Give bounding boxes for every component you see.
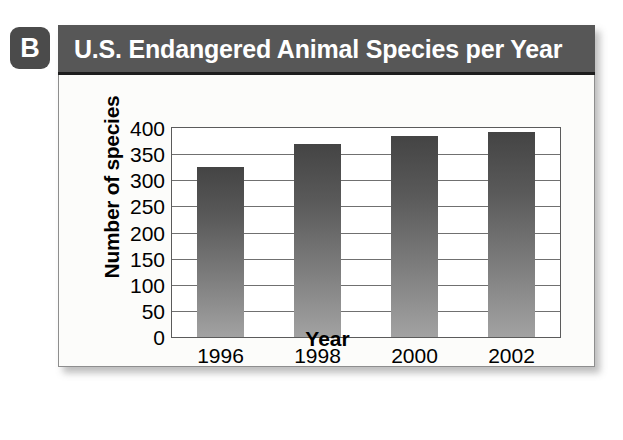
chart-title: U.S. Endangered Animal Species per Year bbox=[74, 35, 562, 64]
chart-panel: U.S. Endangered Animal Species per Year … bbox=[58, 25, 595, 367]
bar bbox=[391, 136, 438, 337]
chart-title-bar: U.S. Endangered Animal Species per Year bbox=[58, 25, 595, 75]
y-axis-tick-label: 350 bbox=[130, 144, 165, 165]
y-axis-tick-label: 50 bbox=[142, 300, 165, 321]
y-axis-tick-label: 150 bbox=[130, 248, 165, 269]
y-axis-tick-label: 200 bbox=[130, 222, 165, 243]
bar bbox=[197, 167, 244, 337]
bar bbox=[294, 144, 341, 337]
plot-area: 400350300250200150100500 199619982000200… bbox=[171, 127, 561, 338]
y-axis-tick-label: 250 bbox=[130, 196, 165, 217]
y-axis-title: Number of species bbox=[100, 92, 124, 282]
y-axis-tick-label: 100 bbox=[130, 274, 165, 295]
y-axis-tick-label: 400 bbox=[130, 118, 165, 139]
y-axis-tick-label: 300 bbox=[130, 170, 165, 191]
figure-letter-badge: B bbox=[10, 27, 50, 69]
x-axis-title: Year bbox=[59, 327, 596, 351]
chart-body: Number of species 4003503002502001501005… bbox=[58, 75, 595, 367]
bar bbox=[488, 132, 535, 337]
